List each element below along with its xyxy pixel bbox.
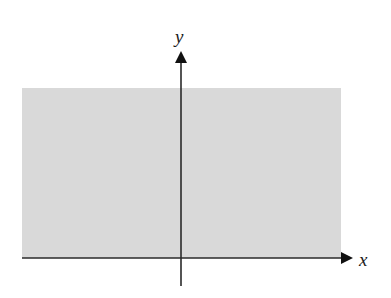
y-axis-arrow-icon bbox=[175, 51, 187, 63]
x-axis-arrow-icon bbox=[341, 252, 353, 264]
coordinate-diagram: y x bbox=[0, 0, 391, 298]
x-axis-label: x bbox=[359, 250, 367, 269]
diagram-canvas bbox=[0, 0, 391, 298]
y-axis-label: y bbox=[175, 27, 183, 46]
